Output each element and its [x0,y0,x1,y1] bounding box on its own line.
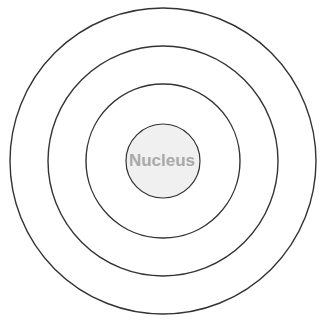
nucleus-label: Nucleus [129,151,195,170]
atom-shell-diagram: Nucleus [0,0,327,322]
